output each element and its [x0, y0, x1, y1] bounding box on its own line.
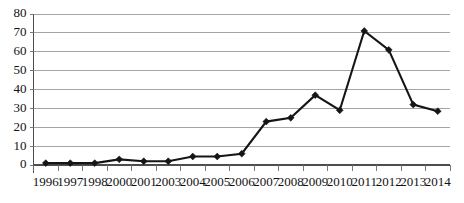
y-tick-label: 30	[14, 100, 27, 115]
line-chart: 0102030405060708019961997199820002001200…	[0, 0, 464, 203]
y-axis-ticks: 01020304050607080	[14, 5, 34, 171]
x-axis-ticks: 1996199719982000200120032004200520062007…	[33, 165, 452, 189]
x-tick-label: 1998	[82, 174, 108, 189]
y-tick-label: 40	[14, 81, 27, 96]
y-tick-label: 70	[14, 24, 27, 39]
data-point-marker	[165, 158, 172, 165]
x-tick-label: 2013	[400, 174, 426, 189]
y-tick-label: 50	[14, 62, 27, 77]
y-tick-label: 80	[14, 5, 27, 20]
y-tick-label: 60	[14, 43, 27, 58]
x-tick-label: 2001	[131, 174, 157, 189]
x-tick-label: 2007	[253, 174, 280, 189]
x-tick-label: 2012	[376, 174, 402, 189]
x-tick-label: 2009	[302, 174, 328, 189]
x-tick-label: 1997	[57, 174, 84, 189]
x-tick-label: 2008	[278, 174, 304, 189]
data-series	[42, 28, 441, 167]
data-point-marker	[140, 158, 147, 165]
gridlines	[34, 14, 451, 146]
data-point-marker	[214, 153, 221, 160]
x-tick-label: 2000	[106, 174, 132, 189]
x-tick-label: 1996	[33, 174, 60, 189]
y-tick-label: 10	[14, 138, 27, 153]
data-point-marker	[189, 153, 196, 160]
x-tick-label: 2004	[180, 174, 207, 189]
axes	[34, 14, 451, 173]
x-tick-label: 2010	[327, 174, 353, 189]
x-tick-label: 2014	[425, 174, 452, 189]
x-tick-label: 2011	[351, 174, 377, 189]
series-line	[46, 31, 438, 163]
data-point-marker	[410, 101, 417, 108]
y-tick-label: 20	[14, 119, 27, 134]
x-tick-label: 2006	[229, 174, 256, 189]
data-point-marker	[434, 108, 441, 115]
chart-canvas: 0102030405060708019961997199820002001200…	[0, 0, 464, 203]
y-tick-label: 0	[20, 156, 27, 171]
data-point-marker	[116, 156, 123, 163]
x-tick-label: 2003	[155, 174, 181, 189]
x-tick-label: 2005	[204, 174, 230, 189]
